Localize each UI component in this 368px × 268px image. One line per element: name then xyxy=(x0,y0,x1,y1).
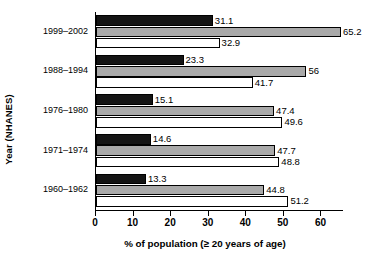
bar-series-2-gray[interactable] xyxy=(96,106,274,117)
bar-series-3-white[interactable] xyxy=(96,117,282,128)
x-axis-tick-mark xyxy=(208,211,209,216)
bar-series-3-white[interactable] xyxy=(96,157,279,168)
bar-value-label: 15.1 xyxy=(153,95,174,105)
bar-series-1-black[interactable] xyxy=(96,174,146,185)
bar-series-2-gray[interactable] xyxy=(96,66,306,77)
bar-value-label: 23.3 xyxy=(184,55,205,65)
x-axis-tick-label: 60 xyxy=(315,217,326,228)
bar-value-label: 31.1 xyxy=(213,16,234,26)
x-axis-tick-label: 0 xyxy=(92,217,98,228)
bar-value-label: 41.7 xyxy=(253,78,274,88)
x-axis-tick-label: 30 xyxy=(202,217,213,228)
bar-row: 31.1 xyxy=(96,15,344,26)
y-axis-title-text: Year (NHANES) xyxy=(3,94,14,164)
bar-value-label: 48.8 xyxy=(279,157,300,167)
bar-row: 48.8 xyxy=(96,157,344,168)
bar-value-label: 32.9 xyxy=(220,38,241,48)
bar-series-2-gray[interactable] xyxy=(96,145,275,156)
bar-row: 23.3 xyxy=(96,55,344,66)
bar-series-2-gray[interactable] xyxy=(96,185,264,196)
x-axis-tick-label: 20 xyxy=(165,217,176,228)
bar-value-label: 14.6 xyxy=(151,135,172,145)
plot-area: 31.165.232.923.35641.715.147.449.614.647… xyxy=(95,12,344,210)
bar-row: 51.2 xyxy=(96,196,344,207)
bar-value-label: 44.8 xyxy=(264,185,285,195)
bar-row: 41.7 xyxy=(96,77,344,88)
bar-series-3-white[interactable] xyxy=(96,38,220,49)
bar-row: 15.1 xyxy=(96,94,344,105)
bar-value-label: 49.6 xyxy=(282,118,303,128)
bar-series-2-gray[interactable] xyxy=(96,27,341,38)
bar-row: 47.4 xyxy=(96,106,344,117)
x-axis-tick-label: 10 xyxy=(127,217,138,228)
bar-row: 44.8 xyxy=(96,185,344,196)
x-axis-tick-label: 40 xyxy=(240,217,251,228)
y-axis-category-labels: 1999–20021988–19941976–19801971–19741960… xyxy=(18,12,92,210)
x-axis-title: % of population (≥ 20 years of age) xyxy=(60,238,350,249)
y-axis-tick-label: 1971–1974 xyxy=(16,145,88,155)
bar-series-1-black[interactable] xyxy=(96,15,213,26)
x-axis-tick-mark xyxy=(283,211,284,216)
bar-series-1-black[interactable] xyxy=(96,55,184,66)
bar-row: 56 xyxy=(96,66,344,77)
y-axis-tick-label: 1988–1994 xyxy=(16,65,88,75)
bar-group: 31.165.232.9 xyxy=(96,12,344,52)
bar-series-3-white[interactable] xyxy=(96,196,288,207)
bar-row: 13.3 xyxy=(96,174,344,185)
bar-group: 14.647.748.8 xyxy=(96,131,344,171)
bar-chart-figure: Year (NHANES) 1999–20021988–19941976–198… xyxy=(0,0,368,268)
x-axis-tick-mark xyxy=(95,211,96,216)
bar-group: 23.35641.7 xyxy=(96,52,344,92)
bar-row: 14.6 xyxy=(96,134,344,145)
x-axis-tick-mark xyxy=(320,211,321,216)
bar-row: 47.7 xyxy=(96,145,344,156)
x-axis-tick-mark xyxy=(245,211,246,216)
bar-series-1-black[interactable] xyxy=(96,134,151,145)
bar-series-3-white[interactable] xyxy=(96,77,253,88)
x-axis-tick-label: 50 xyxy=(277,217,288,228)
bar-value-label: 47.4 xyxy=(274,106,295,116)
y-axis-tick-label: 1976–1980 xyxy=(16,105,88,115)
x-axis-tick-mark xyxy=(170,211,171,216)
bar-row: 49.6 xyxy=(96,117,344,128)
y-axis-title: Year (NHANES) xyxy=(0,54,16,204)
bar-value-label: 56 xyxy=(306,67,319,77)
x-axis: 0102030405060 xyxy=(95,210,343,211)
y-axis-tick-label: 1999–2002 xyxy=(16,26,88,36)
bar-value-label: 13.3 xyxy=(146,174,167,184)
bar-value-label: 65.2 xyxy=(341,27,362,37)
bar-value-label: 47.7 xyxy=(275,146,296,156)
x-axis-tick-mark xyxy=(133,211,134,216)
bar-row: 65.2 xyxy=(96,27,344,38)
y-axis-tick-label: 1960–1962 xyxy=(16,184,88,194)
bar-group: 13.344.851.2 xyxy=(96,170,344,210)
bar-group: 15.147.449.6 xyxy=(96,91,344,131)
bar-value-label: 51.2 xyxy=(288,197,309,207)
bar-row: 32.9 xyxy=(96,38,344,49)
bar-series-1-black[interactable] xyxy=(96,94,153,105)
